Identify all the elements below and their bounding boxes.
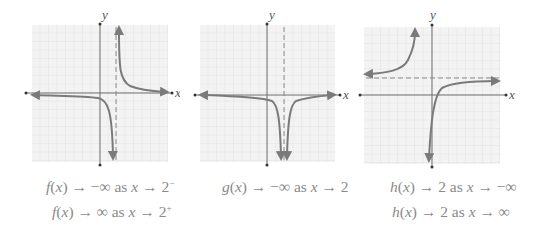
fn-arg: x xyxy=(235,178,242,195)
approach-value: 2 xyxy=(341,178,349,195)
as-word: as xyxy=(114,178,127,195)
fn-arg: x xyxy=(55,178,62,195)
limit-value: −∞ xyxy=(91,178,111,195)
limit-value: 2 xyxy=(438,178,446,195)
fn-arg: x xyxy=(405,203,412,220)
approach-value: −∞ xyxy=(497,178,517,195)
y-axis-label: y xyxy=(428,7,436,22)
approach-value: ∞ xyxy=(499,203,510,220)
as-word: as xyxy=(112,203,125,220)
var: x xyxy=(129,203,136,220)
fn-name: g xyxy=(222,178,230,195)
y-axis-label: y xyxy=(267,7,275,22)
as-word: as xyxy=(294,178,307,195)
var: x xyxy=(469,203,476,220)
side-sup: − xyxy=(169,178,174,188)
x-axis-label: x xyxy=(508,87,515,102)
fn-name: h xyxy=(390,178,398,195)
graph-h-plot: y x xyxy=(358,0,538,170)
graph-h: y x xyxy=(358,0,538,170)
caption-f-right: f(x) → ∞ as x → 2+ xyxy=(52,203,172,221)
graph-g: y x xyxy=(170,0,350,170)
approach-value: 2 xyxy=(161,178,169,195)
x-axis-label: x xyxy=(342,87,349,102)
graph-f: y x xyxy=(0,0,180,170)
caption-g: g(x) → −∞ as x → 2 xyxy=(222,178,349,196)
limit-value: −∞ xyxy=(270,178,290,195)
var: x xyxy=(467,178,474,195)
limit-value: ∞ xyxy=(97,203,108,220)
as-word: as xyxy=(452,203,465,220)
fn-name: h xyxy=(392,203,400,220)
caption-h-neg-inf: h(x) → 2 as x → −∞ xyxy=(390,178,517,196)
graph-f-plot: y x xyxy=(0,0,180,170)
limit-value: 2 xyxy=(440,203,448,220)
fn-name: f xyxy=(52,203,56,220)
y-axis-label: y xyxy=(100,7,108,22)
fn-arg: x xyxy=(403,178,410,195)
var: x xyxy=(311,178,318,195)
side-sup: + xyxy=(166,203,171,213)
as-word: as xyxy=(450,178,463,195)
graph-g-plot: y x xyxy=(170,0,350,170)
caption-h-pos-inf: h(x) → 2 as x → ∞ xyxy=(392,203,510,221)
fn-arg: x xyxy=(61,203,68,220)
fn-name: f xyxy=(46,178,50,195)
caption-f-left: f(x) → −∞ as x → 2− xyxy=(46,178,174,196)
var: x xyxy=(131,178,138,195)
